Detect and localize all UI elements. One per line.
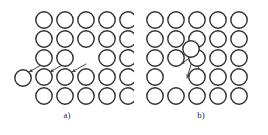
lattice-atom-b-r5c3 (189, 88, 205, 104)
lattice-atom-b-r2c2 (168, 31, 184, 47)
lattice-atom-a-r3c1 (36, 50, 52, 66)
lattice-atom-b-r1c4 (210, 12, 226, 28)
lattice-atom-b-r1c3 (189, 12, 205, 28)
lattice-atom-a-r5c2 (57, 88, 73, 104)
lattice-atom-b-r4c1 (147, 69, 163, 85)
lattice-atom-a-r1c1 (36, 12, 52, 28)
lattice-atom-b-r3c1 (147, 50, 163, 66)
lattice-atom-b-r1c1 (147, 12, 163, 28)
lattice-atom-a-r1c4 (99, 12, 115, 28)
lattice-atom-a-r2c1 (36, 31, 52, 47)
lattice-atom-b-r3c4 (210, 50, 226, 66)
panel-b-caption: b) (134, 110, 268, 121)
panel-a-lattice-canvas (0, 0, 134, 112)
lattice-atom-a-r1c3 (78, 12, 94, 28)
lattice-atom-a-r2c2 (57, 31, 73, 47)
panel-b-interstitial-diagram: b) (134, 0, 268, 135)
lattice-atom-b-r2c4 (210, 31, 226, 47)
lattice-defect-figure: a) b) (0, 0, 268, 135)
lattice-atom-b-r5c2 (168, 88, 184, 104)
lattice-atom-b-r3c2 (168, 50, 184, 66)
lattice-atom-a-r3c5 (120, 50, 134, 66)
lattice-atom-a-r4c5 (120, 69, 134, 85)
lattice-atom-b-r5c5 (231, 88, 247, 104)
lattice-atom-b-r4c3 (189, 69, 205, 85)
lattice-atom-b-r3c5 (231, 50, 247, 66)
panel-a-caption: a) (0, 110, 134, 121)
lattice-atom-b-r4c4 (210, 69, 226, 85)
lattice-atom-a-r2c5 (120, 31, 134, 47)
lattice-atom-a-r4c3 (78, 69, 94, 85)
lattice-atom-a-r2c4 (99, 31, 115, 47)
lattice-atom-a-r4c1 (36, 69, 52, 85)
lattice-atom-a-r5c5 (120, 88, 134, 104)
lattice-atom-a-r4c4 (99, 69, 115, 85)
lattice-atom-b-r5c1 (147, 88, 163, 104)
lattice-atom-a-r5c3 (78, 88, 94, 104)
lattice-atom-b-r2c5 (231, 31, 247, 47)
lattice-atom-b-r1c5 (231, 12, 247, 28)
displaced-atom-a-1 (15, 70, 31, 86)
lattice-atom-b-r2c1 (147, 31, 163, 47)
lattice-atom-b-r1c2 (168, 12, 184, 28)
lattice-atom-b-r4c5 (231, 69, 247, 85)
panel-b-lattice-canvas (134, 0, 268, 112)
lattice-atom-a-r3c2 (57, 50, 73, 66)
lattice-atom-a-r2c3 (78, 31, 94, 47)
lattice-atom-a-r5c1 (36, 88, 52, 104)
lattice-atom-a-r4c2 (57, 69, 73, 85)
lattice-atom-a-r5c4 (99, 88, 115, 104)
panel-a-vacancy-diagram: a) (0, 0, 134, 135)
lattice-atom-a-r3c4 (99, 50, 115, 66)
interstitial-atom-b-1 (183, 41, 199, 57)
lattice-atom-a-r1c2 (57, 12, 73, 28)
lattice-atom-b-r5c4 (210, 88, 226, 104)
lattice-atom-a-r1c5 (120, 12, 134, 28)
